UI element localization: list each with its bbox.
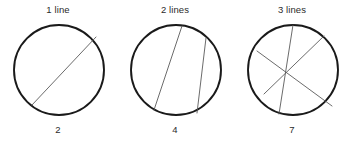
panel-3-region-count: 7 [234,124,348,136]
circle-regions-figure: 1 line 2 2 lines 4 3 lines 7 [0,0,348,148]
panel-2-lines: 2 lines 4 [117,0,233,148]
panel-1-diagram [12,22,106,118]
panel-1-line: 1 line 2 [0,0,116,148]
circle-outline [131,25,221,115]
panel-1-title: 1 line [0,4,116,16]
panel-2-region-count: 4 [117,124,233,136]
panel-1-region-count: 2 [0,124,116,136]
panel-3-diagram [246,22,340,118]
panel-2-diagram [129,22,223,118]
circle-outline [248,25,338,115]
panel-2-title: 2 lines [117,4,233,16]
panel-3-lines: 3 lines 7 [234,0,348,148]
circle-outline [14,25,104,115]
panel-3-title: 3 lines [234,4,348,16]
